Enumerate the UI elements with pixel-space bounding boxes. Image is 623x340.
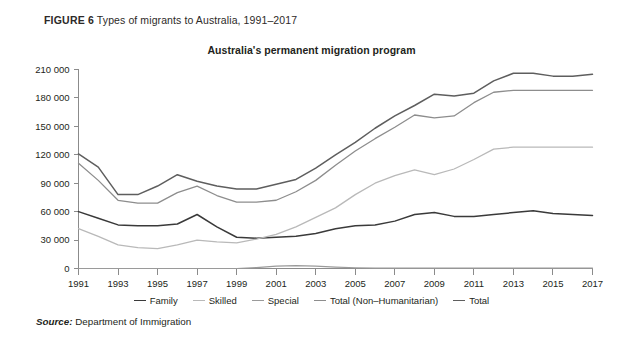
series-line-total bbox=[79, 73, 593, 194]
y-tick-label: 120 000 bbox=[35, 149, 69, 160]
series-lines bbox=[79, 73, 593, 268]
legend-line-swatch-icon bbox=[134, 300, 146, 301]
series-line-family bbox=[79, 211, 593, 238]
y-tick-label: 60 000 bbox=[40, 206, 69, 217]
legend-line-swatch-icon bbox=[314, 300, 326, 301]
y-axis: 030 00060 00090 000120 000150 000180 000… bbox=[35, 64, 78, 274]
x-tick-label: 1997 bbox=[187, 278, 208, 289]
legend-item-skilled[interactable]: Skilled bbox=[193, 296, 237, 306]
y-tick-label: 90 000 bbox=[40, 178, 69, 189]
x-axis: 1991199319951997199920012003200520072009… bbox=[68, 269, 603, 289]
x-tick-label: 2003 bbox=[305, 278, 326, 289]
legend-line-swatch-icon bbox=[453, 300, 465, 301]
x-tick-label: 2007 bbox=[384, 278, 405, 289]
legend-item-label: Total (Non–Humanitarian) bbox=[330, 296, 438, 306]
legend-item-special[interactable]: Special bbox=[252, 296, 299, 306]
source-label: Source: bbox=[36, 316, 72, 327]
x-tick-label: 2011 bbox=[464, 278, 484, 289]
x-tick-label: 2015 bbox=[542, 278, 563, 289]
y-tick-label: 210 000 bbox=[35, 64, 69, 75]
source-note: Source: Department of Immigration bbox=[36, 316, 191, 327]
legend-line-swatch-icon bbox=[193, 300, 205, 301]
y-tick-label: 180 000 bbox=[35, 92, 69, 103]
chart-legend: FamilySkilledSpecialTotal (Non–Humanitar… bbox=[0, 296, 623, 306]
chart-plot-area: 030 00060 00090 000120 000150 000180 000… bbox=[0, 0, 623, 340]
y-tick-label: 30 000 bbox=[40, 234, 69, 245]
legend-item-total[interactable]: Total bbox=[453, 296, 489, 306]
x-tick-label: 2009 bbox=[424, 278, 445, 289]
x-tick-label: 1993 bbox=[107, 278, 128, 289]
x-tick-label: 1999 bbox=[226, 278, 247, 289]
figure-container: FIGURE 6 Types of migrants to Australia,… bbox=[0, 0, 623, 340]
legend-item-total-non-humanitarian[interactable]: Total (Non–Humanitarian) bbox=[314, 296, 438, 306]
y-tick-label: 150 000 bbox=[35, 121, 69, 132]
source-value: Department of Immigration bbox=[75, 316, 191, 327]
x-tick-label: 1995 bbox=[147, 278, 168, 289]
legend-item-label: Special bbox=[268, 296, 299, 306]
x-tick-label: 2005 bbox=[345, 278, 366, 289]
x-tick-label: 1991 bbox=[68, 278, 89, 289]
y-tick-label: 0 bbox=[64, 263, 69, 274]
legend-item-family[interactable]: Family bbox=[134, 296, 178, 306]
line-chart-svg: 030 00060 00090 000120 000150 000180 000… bbox=[0, 0, 623, 340]
legend-item-label: Skilled bbox=[209, 296, 237, 306]
x-tick-label: 2013 bbox=[503, 278, 524, 289]
legend-item-label: Family bbox=[150, 296, 178, 306]
x-tick-label: 2017 bbox=[582, 278, 603, 289]
legend-item-label: Total bbox=[469, 296, 489, 306]
legend-line-swatch-icon bbox=[252, 300, 264, 301]
x-tick-label: 2001 bbox=[266, 278, 287, 289]
series-line-skilled bbox=[79, 147, 593, 248]
